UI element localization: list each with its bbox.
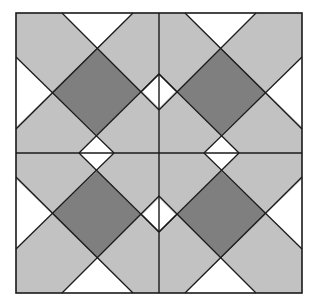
block-top-left <box>16 13 159 153</box>
quilt-diagram <box>0 0 317 305</box>
block-bottom-right <box>159 153 302 293</box>
block-top-right <box>159 13 302 153</box>
block-bottom-left <box>16 153 159 293</box>
